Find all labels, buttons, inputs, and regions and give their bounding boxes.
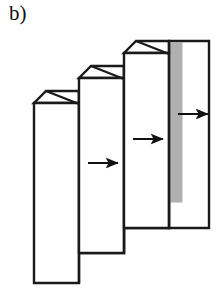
unit-3-shaded-band — [170, 42, 183, 203]
folded-panel-diagram — [0, 0, 223, 302]
figure-root: b) — [0, 0, 223, 302]
unit-2-front-face — [79, 78, 124, 253]
unit-1-front-face — [34, 103, 79, 283]
unit-3-front-face — [124, 53, 169, 228]
unit-group-3 — [124, 41, 209, 228]
